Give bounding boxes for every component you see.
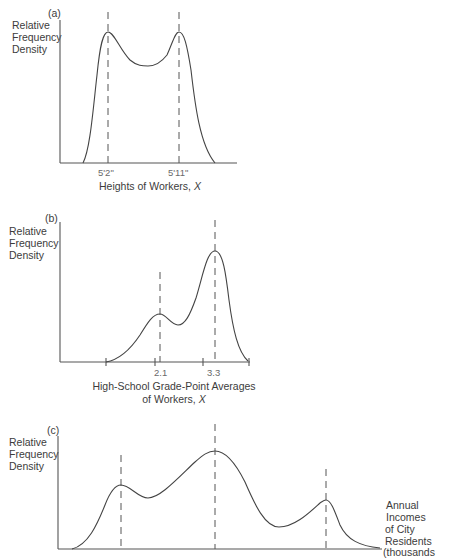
density-curve: [83, 32, 215, 163]
chart-c-plot: [58, 424, 382, 549]
chart-a-plot: [60, 12, 237, 163]
density-curve: [106, 251, 248, 362]
density-curve: [72, 451, 380, 549]
chart-b-plot: [60, 220, 250, 366]
